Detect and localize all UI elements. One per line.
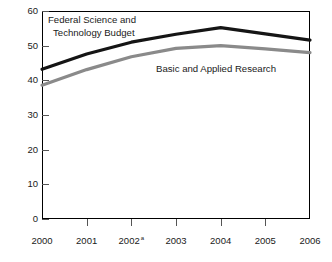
- x-tick-footnote-marker: a: [140, 235, 144, 241]
- x-tick-label: 2005: [242, 235, 288, 246]
- x-tick-label: 2003: [153, 235, 199, 246]
- x-tick-mark: [131, 219, 132, 226]
- x-tick-mark: [265, 219, 266, 226]
- series-label-line-1: Basic and Applied Research: [156, 63, 276, 74]
- series-label-line-1: Federal Science and: [48, 14, 136, 25]
- x-axis: 200020012002a2003200420052006: [0, 0, 332, 262]
- series-label-federal-science-and-technology-budget: Federal Science and Technology Budget: [48, 14, 136, 39]
- x-tick-label: 2001: [64, 235, 110, 246]
- series-label-line-2: Technology Budget: [48, 27, 136, 40]
- series-label-basic-and-applied-research: Basic and Applied Research: [156, 63, 276, 76]
- x-tick-mark: [87, 219, 88, 226]
- x-tick-label: 2000: [19, 235, 65, 246]
- chart-container: 0102030405060 200020012002a2003200420052…: [0, 0, 332, 262]
- x-tick-mark: [221, 219, 222, 226]
- x-tick-mark: [176, 219, 177, 226]
- x-tick-label: 2002a: [108, 235, 154, 246]
- x-tick-label: 2006: [287, 235, 332, 246]
- x-tick-label: 2004: [198, 235, 244, 246]
